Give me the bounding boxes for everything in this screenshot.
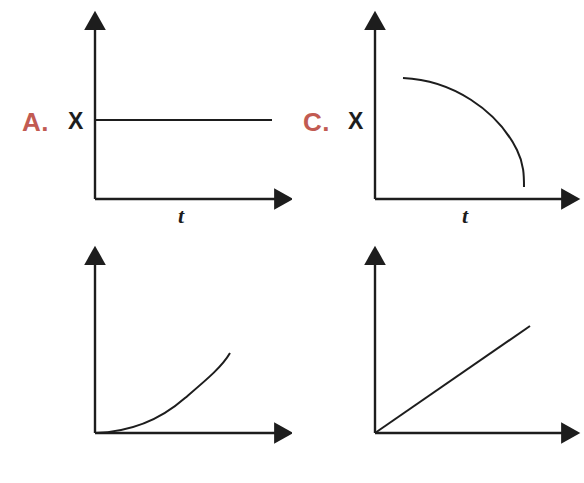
graph-panel-c-canvas xyxy=(292,0,584,241)
x-axis-label-a: t xyxy=(178,205,184,227)
graph-panel-c: C. X t xyxy=(292,0,584,241)
y-axis-label-c: X xyxy=(348,110,363,133)
x-axis-label-c: t xyxy=(462,205,468,227)
graph-panel-d: D. X t xyxy=(292,242,584,483)
curve-b-increasing-concave-up xyxy=(95,353,230,433)
multi-panel-graph-figure: A. X t C. X t xyxy=(0,0,584,483)
graph-panel-b: B. X t xyxy=(0,242,292,483)
panel-letter-a: A. xyxy=(22,109,49,135)
graph-panel-d-canvas xyxy=(292,242,584,483)
panel-letter-c: C. xyxy=(303,109,330,135)
curve-d-linear xyxy=(375,326,530,433)
curve-c-decreasing-concave-down xyxy=(403,78,524,187)
graph-panel-a: A. X t xyxy=(0,0,292,241)
y-axis-label-a: X xyxy=(68,110,83,133)
graph-panel-b-canvas xyxy=(0,242,292,483)
